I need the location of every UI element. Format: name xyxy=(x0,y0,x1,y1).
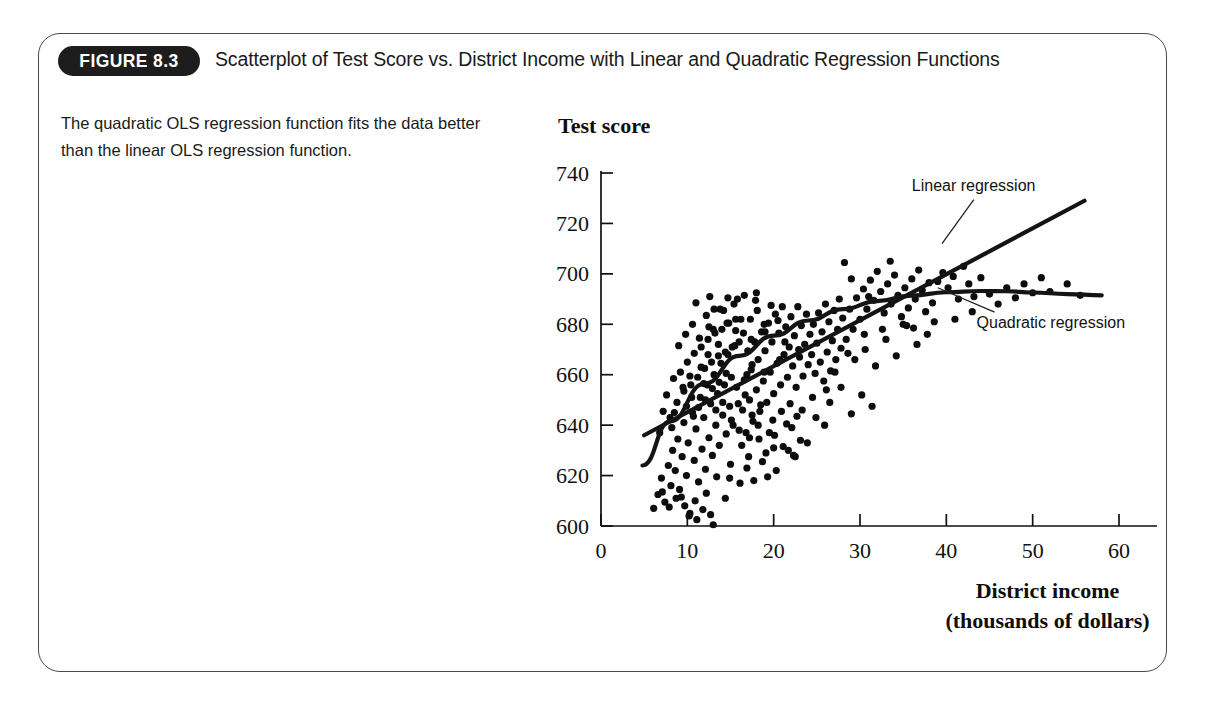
data-point xyxy=(702,466,709,473)
data-point xyxy=(1012,294,1019,301)
data-point xyxy=(977,274,984,281)
data-point xyxy=(787,313,794,320)
data-point xyxy=(1020,280,1027,287)
y-axis-tick-label: 680 xyxy=(556,312,589,337)
data-point xyxy=(665,462,672,469)
data-point xyxy=(764,473,771,480)
data-point xyxy=(684,359,691,366)
x-axis-tick-label: 50 xyxy=(1022,538,1044,563)
data-point xyxy=(837,345,844,352)
data-point xyxy=(679,453,686,460)
data-point xyxy=(712,406,719,413)
data-point xyxy=(723,319,730,326)
data-point xyxy=(848,275,855,282)
data-point xyxy=(817,359,824,366)
data-point xyxy=(757,401,764,408)
data-point xyxy=(729,343,736,350)
x-axis-tick-label: 40 xyxy=(935,538,957,563)
data-point xyxy=(699,506,706,513)
data-point xyxy=(762,449,769,456)
data-point xyxy=(877,288,884,295)
data-point xyxy=(669,447,676,454)
data-point xyxy=(785,447,792,454)
data-point xyxy=(951,316,958,323)
x-axis-title: District income xyxy=(976,578,1120,603)
data-point xyxy=(995,301,1002,308)
data-point xyxy=(913,341,920,348)
quadratic-regression-annotation: Quadratic regression xyxy=(977,314,1126,331)
data-point xyxy=(681,502,688,509)
data-point xyxy=(682,331,689,338)
data-point xyxy=(901,284,908,291)
data-point xyxy=(759,458,766,465)
data-point xyxy=(862,346,869,353)
data-point xyxy=(805,361,812,368)
data-point xyxy=(784,374,791,381)
data-point xyxy=(736,338,743,345)
data-point xyxy=(712,422,719,429)
data-point xyxy=(737,316,744,323)
data-point xyxy=(777,381,784,388)
data-point xyxy=(969,308,976,315)
x-axis-tick-label: 30 xyxy=(849,538,871,563)
data-point xyxy=(698,343,705,350)
data-point xyxy=(837,384,844,391)
data-point xyxy=(922,308,929,315)
regression-curves-layer xyxy=(642,201,1101,466)
data-point xyxy=(799,372,806,379)
data-point xyxy=(752,297,759,304)
data-point xyxy=(732,327,739,334)
data-point xyxy=(908,275,915,282)
data-point xyxy=(660,408,667,415)
scatter-plot: 6006206406606807007207400102030405060Tes… xyxy=(39,34,1168,673)
data-point xyxy=(750,477,757,484)
data-point xyxy=(898,313,905,320)
data-point xyxy=(687,381,694,388)
data-point xyxy=(766,429,773,436)
data-point xyxy=(748,336,755,343)
data-point xyxy=(713,473,720,480)
data-point xyxy=(693,516,700,523)
data-point xyxy=(865,293,872,300)
data-point xyxy=(808,351,815,358)
data-point xyxy=(691,457,698,464)
data-point xyxy=(715,352,722,359)
data-point xyxy=(673,399,680,406)
data-point xyxy=(748,411,755,418)
data-point xyxy=(772,311,779,318)
data-point xyxy=(671,409,678,416)
data-point xyxy=(692,497,699,504)
data-point xyxy=(659,488,666,495)
data-point xyxy=(768,338,775,345)
data-point xyxy=(709,452,716,459)
data-point xyxy=(767,302,774,309)
data-point xyxy=(773,467,780,474)
data-point xyxy=(915,266,922,273)
data-point xyxy=(746,434,753,441)
data-point xyxy=(691,350,698,357)
data-point xyxy=(680,419,687,426)
data-point xyxy=(722,495,729,502)
data-point xyxy=(756,408,763,415)
data-point xyxy=(760,377,767,384)
data-point xyxy=(719,411,726,418)
data-point xyxy=(823,386,830,393)
y-axis-tick-label: 620 xyxy=(556,463,589,488)
y-axis-tick-label: 660 xyxy=(556,362,589,387)
data-point xyxy=(709,385,716,392)
data-point xyxy=(735,400,742,407)
data-point xyxy=(820,377,827,384)
data-point xyxy=(679,384,686,391)
data-point xyxy=(836,295,843,302)
data-point xyxy=(743,464,750,471)
y-axis-tick-label: 740 xyxy=(556,161,589,186)
axis-labels-layer: 6006206406606807007207400102030405060Tes… xyxy=(556,113,1150,633)
data-point xyxy=(893,352,900,359)
x-axis-tick-label: 0 xyxy=(596,538,607,563)
data-point xyxy=(793,413,800,420)
data-point xyxy=(868,403,875,410)
data-point xyxy=(924,331,931,338)
data-point xyxy=(774,317,781,324)
data-point xyxy=(797,437,804,444)
data-point xyxy=(794,303,801,310)
